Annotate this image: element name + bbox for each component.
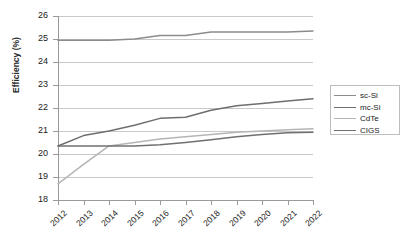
legend-label-mc-si: mc-Si: [360, 103, 380, 112]
legend-item-mc-si: mc-Si: [331, 102, 399, 114]
legend-label-sc-si: sc-Si: [360, 91, 378, 100]
legend-item-cigs: CIGS: [331, 125, 399, 137]
chart-legend: sc-Si mc-Si CdTe CIGS: [330, 85, 400, 135]
legend-item-cdte: CdTe: [331, 113, 399, 125]
legend-label-cigs: CIGS: [360, 126, 380, 135]
series-line-mc-si: [58, 99, 313, 146]
series-line-sc-si: [58, 31, 313, 40]
efficiency-line-chart: Efficiency (%) 181920212223242526 201220…: [0, 0, 413, 248]
legend-label-cdte: CdTe: [360, 114, 379, 123]
series-line-cigs: [58, 132, 313, 146]
legend-swatch-mc-si: [334, 107, 356, 108]
legend-swatch-cigs: [334, 130, 356, 131]
series-line-cdte: [58, 129, 313, 184]
legend-item-sc-si: sc-Si: [331, 90, 399, 102]
legend-swatch-cdte: [334, 118, 356, 119]
legend-swatch-sc-si: [334, 95, 356, 96]
